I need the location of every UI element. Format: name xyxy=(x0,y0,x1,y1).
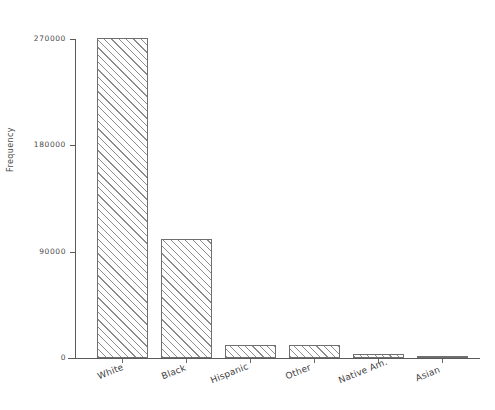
y-tick-mark xyxy=(70,39,75,40)
bar-asian xyxy=(417,356,468,358)
y-tick-mark xyxy=(70,252,75,253)
x-label-hispanic: Hispanic xyxy=(209,361,250,385)
x-tick-mark xyxy=(314,359,315,363)
x-tick-mark xyxy=(250,359,251,363)
y-tick-label: 0 xyxy=(12,353,66,362)
y-tick-group-270000: 270000 xyxy=(0,39,75,40)
x-axis-line xyxy=(68,358,480,359)
y-tick-group-0: 0 xyxy=(0,358,75,359)
y-tick-label: 180000 xyxy=(12,140,66,149)
x-tick-mark xyxy=(122,359,123,363)
bar-white xyxy=(97,38,148,358)
bar-hispanic xyxy=(225,345,276,358)
x-label-native-am: Native Am. xyxy=(337,357,389,386)
x-tick-mark xyxy=(442,359,443,363)
x-tick-mark xyxy=(186,359,187,363)
x-label-asian: Asian xyxy=(414,364,441,383)
y-tick-label: 90000 xyxy=(12,247,66,256)
x-label-white: White xyxy=(96,362,125,381)
y-axis-title: Frequency xyxy=(6,72,15,172)
y-tick-group-90000: 90000 xyxy=(0,252,75,253)
bar-chart: Frequency 270000 180000 90000 0 White Bl… xyxy=(0,0,495,410)
bar-native-am xyxy=(353,354,404,358)
x-label-other: Other xyxy=(284,362,312,381)
y-tick-group-180000: 180000 xyxy=(0,145,75,146)
y-axis-line xyxy=(75,39,76,359)
x-label-black: Black xyxy=(160,363,187,382)
y-tick-mark xyxy=(70,145,75,146)
y-tick-label: 270000 xyxy=(12,34,66,43)
bar-black xyxy=(161,239,212,358)
bar-other xyxy=(289,345,340,358)
